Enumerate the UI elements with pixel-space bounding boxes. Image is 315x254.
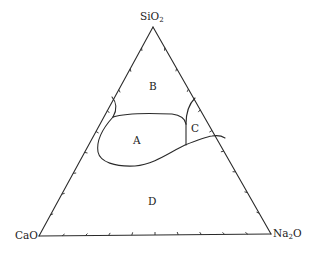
boundary-a-d <box>98 117 225 166</box>
tick-mark-right <box>221 151 224 152</box>
ternary-diagram <box>0 0 315 254</box>
region-label-a: A <box>133 134 141 146</box>
vertex-label-sio2: SiO2 <box>140 10 164 24</box>
tick-mark-right <box>187 89 188 92</box>
vertex-subscript-2: 2 <box>159 16 163 24</box>
vertex-formula-o: O <box>293 227 302 239</box>
region-label-d: D <box>148 195 156 207</box>
tick-mark-left <box>119 90 120 93</box>
tick-marks <box>50 48 259 236</box>
tick-mark-right <box>209 131 212 133</box>
vertex-formula-na: Na <box>273 227 288 239</box>
tick-mark-right <box>176 68 177 71</box>
tick-mark-left <box>130 69 131 72</box>
vertex-formula-cao: CaO <box>15 229 38 241</box>
phase-boundaries <box>98 97 225 166</box>
tick-mark-left <box>85 152 88 153</box>
boundary-a-b <box>113 113 186 124</box>
boundary-b-c <box>186 98 195 124</box>
region-label-c: C <box>191 122 199 134</box>
vertex-label-cao: CaO <box>15 229 38 241</box>
tick-mark-left <box>96 132 99 134</box>
vertex-label-na2o: Na2O <box>273 227 302 241</box>
tick-mark-left <box>107 111 109 113</box>
tick-mark-right <box>198 110 200 112</box>
region-label-b: B <box>149 80 157 92</box>
vertex-formula-sio: SiO <box>140 10 159 22</box>
